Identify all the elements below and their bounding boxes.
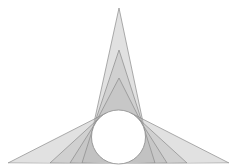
center-circle xyxy=(92,110,146,164)
star-circle-diagram xyxy=(0,0,237,168)
